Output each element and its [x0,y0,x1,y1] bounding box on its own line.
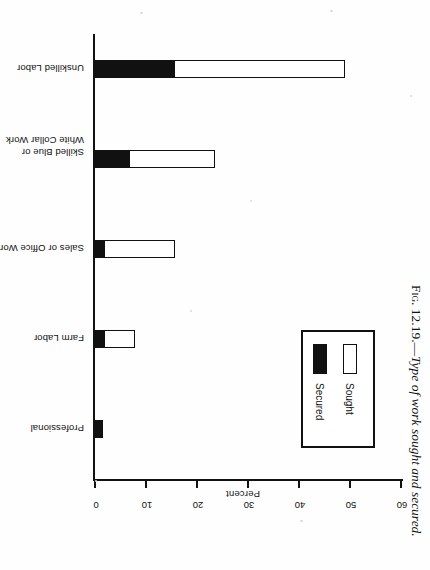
bar-secured [95,150,130,168]
value-tick-50 [349,481,351,488]
chart-legend: Sought Secured [301,330,375,448]
bar-secured [95,420,103,438]
caption-dash: — [409,343,424,357]
caption-title: Type of work sought and secured. [409,356,424,537]
bar-sought [95,240,175,258]
caption-fig-label: Fig. [409,285,424,305]
legend-label-secured: Secured [315,383,326,420]
legend-item-secured[interactable]: Secured [309,344,331,420]
bar-secured [95,330,105,348]
value-tick-label-30: 30 [236,500,262,510]
caption-fig-number: 12.19. [409,309,424,343]
legend-label-sought: Sought [345,383,356,415]
value-tick-label-10: 10 [134,500,160,510]
category-label-professional: Professional [0,423,84,435]
value-tick-label-0: 0 [83,500,109,510]
chart-plot-area: Unskilled Labor Skilled Blue or White Co… [0,0,430,570]
figure-caption-text: Fig. 12.19.—Type of work sought and secu… [402,285,424,570]
value-tick-20 [196,481,198,488]
value-tick-0 [94,481,96,488]
bar-secured [95,240,105,258]
open-box-icon [343,344,357,374]
category-label-skilled-blue-white-collar: Skilled Blue or White Collar Work [0,135,84,158]
value-tick-label-50: 50 [338,500,364,510]
legend-item-sought[interactable]: Sought [339,344,361,415]
category-label-unskilled-labor: Unskilled Labor [0,63,84,75]
rotated-figure-stage: Unskilled Labor Skilled Blue or White Co… [0,0,430,570]
value-tick-40 [298,481,300,488]
solid-box-icon [313,344,327,374]
value-tick-10 [145,481,147,488]
value-tick-30 [247,481,249,488]
bar-secured [95,60,175,78]
value-axis-title: Percent [226,489,260,500]
category-label-sales-or-office-work: Sales or Office Work [0,243,84,255]
value-tick-label-40: 40 [287,500,313,510]
figure-page: Unskilled Labor Skilled Blue or White Co… [0,0,430,570]
value-tick-label-20: 20 [185,500,211,510]
category-label-farm-labor: Farm Labor [0,333,84,345]
